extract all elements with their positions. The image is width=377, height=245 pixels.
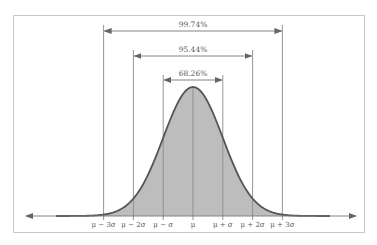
x-tick-label: μ − 3σ [92, 221, 116, 229]
x-tick-label: μ [191, 221, 196, 229]
x-tick-label: μ + σ [213, 221, 233, 229]
interval-label: 68.26% [179, 69, 208, 78]
x-tick-labels: μ − 3σμ − 2σμ − σμμ + σμ + 2σμ + 3σ [92, 221, 295, 229]
x-tick-label: μ − σ [153, 221, 173, 229]
x-tick-label: μ + 2σ [241, 221, 265, 229]
interval-label: 99.74% [179, 20, 208, 29]
normal-distribution-figure: 68.26%95.44%99.74% μ − 3σμ − 2σμ − σμμ +… [0, 0, 377, 245]
x-tick-label: μ − 2σ [121, 221, 145, 229]
interval-label: 95.44% [179, 45, 208, 54]
chart-svg: 68.26%95.44%99.74% μ − 3σμ − 2σμ − σμμ +… [0, 0, 377, 245]
x-tick-label: μ + 3σ [270, 221, 294, 229]
